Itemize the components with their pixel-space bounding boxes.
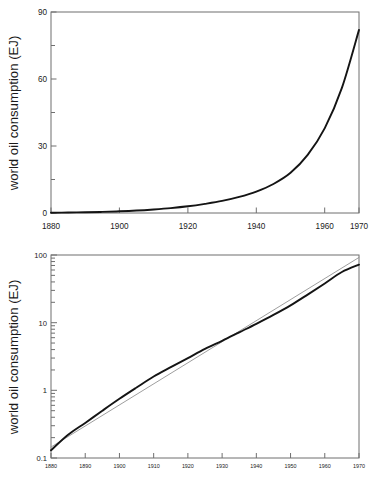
- log-xtick-1880: 1880: [45, 463, 57, 469]
- log-data-line: [51, 265, 359, 451]
- linear-ytick-90: 90: [38, 8, 48, 17]
- log-y-minor-ticks: [51, 258, 55, 438]
- log-xtick-1920: 1920: [182, 463, 194, 469]
- log-xtick-1890: 1890: [79, 463, 91, 469]
- log-y-axis-title: world oil consumption (EJ): [6, 280, 21, 436]
- log-xtick-1970: 1970: [353, 463, 365, 469]
- linear-ytick-30: 30: [38, 142, 48, 151]
- linear-chart-panel: 0 30 60 90 1880 1900 1920 1940 1960 1970…: [0, 0, 390, 243]
- linear-xtick-1880: 1880: [42, 222, 61, 231]
- log-xtick-1900: 1900: [113, 463, 125, 469]
- linear-ytick-60: 60: [38, 75, 48, 84]
- log-ytick-1: 1: [43, 386, 47, 395]
- log-x-tick-labels: 1880189019001910192019301940195019601970: [45, 463, 365, 469]
- linear-data-line: [51, 30, 359, 213]
- linear-xtick-1970: 1970: [350, 222, 369, 231]
- log-xtick-1940: 1940: [250, 463, 262, 469]
- linear-y-axis-title: world oil consumption (EJ): [6, 36, 21, 192]
- log-ytick-10: 10: [39, 319, 47, 328]
- linear-xtick-1960: 1960: [316, 222, 335, 231]
- linear-xtick-1920: 1920: [179, 222, 198, 231]
- log-ytick-0-1: 0.1: [36, 454, 47, 463]
- log-chart-panel: 100 10 1 0.1 188018901900191019201930194…: [0, 243, 390, 486]
- linear-chart-svg: 0 30 60 90 1880 1900 1920 1940 1960 1970…: [0, 0, 390, 243]
- log-reference-line: [51, 257, 359, 447]
- linear-y-minor-ticks: [51, 46, 55, 180]
- log-x-major-ticks: [51, 453, 359, 458]
- log-ytick-100: 100: [34, 251, 47, 260]
- linear-ytick-0: 0: [42, 209, 47, 218]
- linear-xtick-1900: 1900: [110, 222, 129, 231]
- log-xtick-1960: 1960: [319, 463, 331, 469]
- log-xtick-1910: 1910: [148, 463, 160, 469]
- two-panel-oil-consumption-figure: 0 30 60 90 1880 1900 1920 1940 1960 1970…: [0, 0, 390, 486]
- log-y-major-ticks: [51, 255, 57, 458]
- linear-xtick-1940: 1940: [247, 222, 266, 231]
- log-chart-svg: 100 10 1 0.1 188018901900191019201930194…: [0, 243, 390, 486]
- log-xtick-1950: 1950: [285, 463, 297, 469]
- linear-plot-frame: [51, 12, 359, 213]
- log-xtick-1930: 1930: [216, 463, 228, 469]
